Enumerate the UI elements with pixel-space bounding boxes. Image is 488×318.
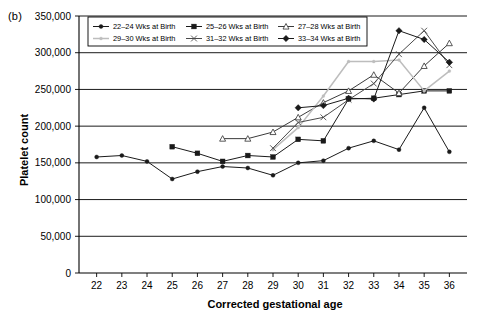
x-tick-label: 22 xyxy=(91,280,103,291)
x-tick-label: 35 xyxy=(419,280,431,291)
x-tick-label: 28 xyxy=(242,280,254,291)
x-tick-label: 36 xyxy=(444,280,456,291)
platelet-count-line-chart: 050,000100,000150,000200,000250,000300,0… xyxy=(0,0,488,318)
axes-group xyxy=(79,16,467,273)
y-tick-label: 350,000 xyxy=(35,11,72,22)
data-point-marker xyxy=(246,166,250,170)
data-point-marker xyxy=(245,153,250,158)
panel-label: (b) xyxy=(8,10,22,22)
data-point-marker xyxy=(371,72,377,78)
legend-item-label: 33–34 Wks at Birth xyxy=(298,34,360,43)
data-point-marker xyxy=(322,95,325,98)
data-point-marker xyxy=(296,137,301,142)
data-series xyxy=(95,106,452,181)
data-point-marker xyxy=(296,161,300,165)
data-point-marker xyxy=(448,70,451,73)
legend-item-label: 29–30 Wks at Birth xyxy=(113,34,175,43)
data-point-marker xyxy=(397,59,400,62)
x-tick-label: 32 xyxy=(343,280,355,291)
y-tick-label: 250,000 xyxy=(35,84,72,95)
data-point-marker xyxy=(447,88,452,93)
data-point-marker xyxy=(295,105,301,111)
x-tick-label: 33 xyxy=(368,280,380,291)
data-point-marker xyxy=(423,89,426,92)
data-point-marker xyxy=(371,81,377,87)
x-tick-label: 29 xyxy=(267,280,279,291)
data-point-marker xyxy=(372,139,376,143)
data-point-marker xyxy=(421,28,427,34)
data-point-marker xyxy=(271,173,275,177)
data-point-marker xyxy=(170,144,175,149)
gridlines-group xyxy=(79,16,467,236)
data-point-marker xyxy=(447,150,451,154)
y-tick-label: 100,000 xyxy=(35,194,72,205)
data-point-marker xyxy=(270,129,276,135)
data-point-marker xyxy=(321,138,326,143)
legend-item-label: 27–28 Wks at Birth xyxy=(298,22,360,31)
y-tick-group: 050,000100,000150,000200,000250,000300,0… xyxy=(35,11,79,279)
data-point-marker xyxy=(446,40,452,46)
x-tick-label: 34 xyxy=(393,280,405,291)
x-tick-label: 27 xyxy=(217,280,229,291)
y-tick-label: 50,000 xyxy=(40,231,71,242)
data-point-marker xyxy=(95,155,99,159)
legend-item-label: 31–32 Wks at Birth xyxy=(206,34,268,43)
data-point-marker xyxy=(346,88,352,94)
legend-item-label: 25–26 Wks at Birth xyxy=(206,22,268,31)
x-tick-group: 222324252627282930313233343536 xyxy=(91,273,455,291)
data-point-marker xyxy=(372,60,375,63)
y-axis-title: Platelet count xyxy=(18,114,30,186)
data-point-marker xyxy=(396,27,402,33)
data-point-marker xyxy=(195,170,199,174)
data-point-marker xyxy=(397,148,401,152)
data-point-marker xyxy=(271,155,276,160)
data-point-marker xyxy=(99,25,103,29)
x-tick-label: 24 xyxy=(141,280,153,291)
data-point-marker xyxy=(297,126,300,129)
y-tick-label: 300,000 xyxy=(35,47,72,58)
y-tick-label: 0 xyxy=(65,268,71,279)
x-tick-label: 26 xyxy=(192,280,204,291)
x-tick-label: 30 xyxy=(293,280,305,291)
data-point-marker xyxy=(100,37,103,40)
x-axis-title: Corrected gestational age xyxy=(207,298,342,310)
series-line xyxy=(223,43,450,138)
series-line xyxy=(273,60,449,150)
data-point-marker xyxy=(145,159,149,163)
figure-panel: (b) 050,000100,000150,000200,000250,0003… xyxy=(0,0,488,318)
y-tick-label: 150,000 xyxy=(35,157,72,168)
data-point-marker xyxy=(396,51,402,57)
data-point-marker xyxy=(220,159,225,164)
data-point-marker xyxy=(192,24,197,29)
chart-legend: 22–24 Wks at Birth25–26 Wks at Birth27–2… xyxy=(88,17,367,46)
data-point-marker xyxy=(221,165,225,169)
data-point-marker xyxy=(195,151,200,156)
series-layer xyxy=(95,27,453,181)
y-tick-label: 200,000 xyxy=(35,121,72,132)
data-point-marker xyxy=(295,114,301,120)
data-point-marker xyxy=(347,60,350,63)
series-line xyxy=(97,108,450,179)
x-tick-label: 23 xyxy=(116,280,128,291)
x-tick-label: 25 xyxy=(167,280,179,291)
data-point-marker xyxy=(120,154,124,158)
data-point-marker xyxy=(347,146,351,150)
data-point-marker xyxy=(422,106,426,110)
data-point-marker xyxy=(170,177,174,181)
x-tick-label: 31 xyxy=(318,280,330,291)
legend-item-label: 22–24 Wks at Birth xyxy=(113,22,175,31)
data-point-marker xyxy=(321,159,325,163)
